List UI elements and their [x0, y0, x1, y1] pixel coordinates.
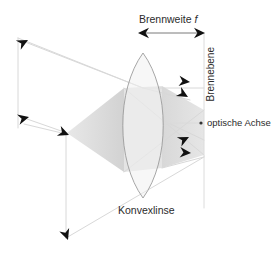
convex-lens — [123, 53, 164, 198]
focal-length-measure — [138, 28, 205, 38]
focal-length-symbol: f — [194, 13, 197, 25]
cone-left-wedge — [67, 88, 124, 172]
focal-length-label: Brennweite f — [139, 14, 197, 25]
focal-plane-label: Brennebene — [206, 47, 216, 102]
focal-length-label-text: Brennweite — [139, 13, 192, 25]
diagram-canvas — [0, 0, 277, 259]
arrowhead-object-mid-icon — [17, 112, 30, 125]
ray-axis-horizontal-in — [18, 38, 143, 88]
lens-label: Konvexlinse — [118, 205, 175, 216]
lens-body — [123, 53, 164, 198]
arrowhead-image-upper-icon — [179, 76, 191, 87]
optics-diagram: Brennweite f Brennebene optische Achse K… — [0, 0, 277, 259]
optical-axis-label: optische Achse — [207, 118, 271, 128]
optical-axis-dot — [199, 121, 202, 124]
